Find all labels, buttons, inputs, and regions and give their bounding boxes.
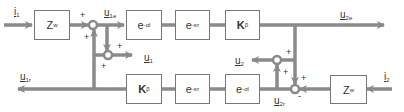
block-zw-bottom-sub: w	[350, 87, 354, 93]
block-k-beta-bottom: Kβ	[126, 74, 162, 104]
block-attenuation-bottom: e-αl	[225, 74, 260, 104]
block-zw-bottom: Zw	[330, 75, 367, 104]
block-k-beta-top: Kβ	[225, 10, 260, 40]
sign-plus-sum2-top: +	[117, 42, 122, 51]
block-attenuation-bottom-sup: -αl	[242, 86, 249, 92]
block-delay-bottom-sup: -sτ	[192, 86, 199, 92]
label-u1-sub: 1	[150, 58, 153, 64]
sign-plus-sum1-bottom: +	[84, 33, 89, 42]
block-delay-top: e-sτ	[175, 10, 210, 40]
block-k-beta-top-base: K	[237, 19, 245, 31]
block-attenuation-top: e-αl	[126, 10, 162, 40]
block-delay-top-sup: -sτ	[192, 22, 199, 28]
block-k-beta-top-sub: β	[245, 22, 248, 28]
label-u2e-sub: 2e	[346, 15, 353, 21]
label-i1-sub: 1	[16, 12, 19, 18]
block-k-beta-bottom-sub: β	[146, 86, 149, 92]
label-i1: i1	[14, 7, 20, 18]
label-i2-sub: 2	[386, 77, 389, 83]
label-u2: u2	[235, 56, 244, 67]
sign-plus-sum2-left: +	[101, 62, 106, 71]
label-u1e-sub: 1e	[110, 13, 117, 19]
sign-minus-sum4-right: -	[298, 92, 301, 101]
label-u2r: u2r	[274, 96, 285, 107]
block-zw-bottom-base: Z	[343, 84, 350, 96]
label-u2r-sub: 2r	[280, 101, 285, 107]
sign-plus-sum1-left: +	[80, 11, 85, 20]
sum-node-3	[273, 56, 281, 64]
block-k-beta-bottom-base: K	[138, 83, 146, 95]
label-u1r-sub: 1r	[26, 77, 31, 83]
label-u1: u1	[144, 53, 153, 64]
sign-plus-sum3-right: +	[286, 48, 291, 57]
label-u2-sub: 2	[241, 61, 244, 67]
sign-plus-sum4-top: +	[301, 74, 306, 83]
label-i2: i2	[384, 72, 390, 83]
block-attenuation-top-sup: -αl	[144, 22, 151, 28]
block-zw-top: Zw	[34, 10, 70, 40]
sign-plus-sum3-bottom: +	[283, 68, 288, 77]
sum-node-1	[89, 21, 97, 29]
block-delay-bottom: e-sτ	[175, 74, 210, 104]
block-zw-top-sub: w	[53, 22, 57, 28]
label-u2e: u2e	[340, 10, 352, 21]
label-u1r: u1r	[20, 72, 31, 83]
sum-node-2	[104, 51, 112, 59]
label-u1e: u1e	[104, 8, 116, 19]
